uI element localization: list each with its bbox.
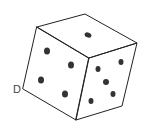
top-pip <box>84 31 92 38</box>
corner-label: D <box>13 83 21 95</box>
die-drawing <box>0 0 146 130</box>
left-pip-3 <box>38 77 44 84</box>
left-pip-4 <box>62 91 68 98</box>
left-pip-2 <box>68 62 74 69</box>
right-pip-4 <box>111 91 116 97</box>
right-pip-5 <box>89 98 94 104</box>
right-pip-1 <box>96 66 101 72</box>
right-pip-3 <box>103 79 109 85</box>
left-pip-1 <box>44 48 50 55</box>
right-pip-2 <box>119 59 124 65</box>
